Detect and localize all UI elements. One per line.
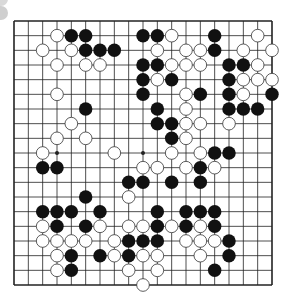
black-stone [136, 176, 149, 189]
white-stone [151, 161, 164, 174]
white-stone [108, 147, 121, 160]
white-stone [51, 132, 64, 145]
black-stone [208, 264, 221, 277]
white-stone [266, 73, 279, 86]
white-stone [36, 220, 49, 233]
black-stone [50, 161, 63, 174]
black-stone [151, 205, 164, 218]
white-stone [65, 44, 78, 57]
black-stone [237, 58, 250, 71]
white-stone [51, 264, 64, 277]
black-stone [251, 102, 264, 115]
black-stone [151, 102, 164, 115]
white-stone [51, 59, 64, 72]
black-stone [165, 132, 178, 145]
white-stone [108, 235, 121, 248]
star-point [55, 151, 59, 155]
white-stone [51, 88, 64, 101]
black-stone [36, 161, 49, 174]
black-stone [136, 234, 149, 247]
black-stone [151, 117, 164, 130]
black-stone [222, 249, 235, 262]
black-stone [208, 220, 221, 233]
white-stone [137, 220, 150, 233]
white-stone [65, 117, 78, 130]
black-stone [79, 29, 92, 42]
black-stone [108, 44, 121, 57]
black-stone [194, 176, 207, 189]
white-stone [165, 59, 178, 72]
white-stone [223, 117, 236, 130]
black-stone [194, 161, 207, 174]
black-stone [179, 205, 192, 218]
white-stone [180, 132, 193, 145]
black-stone [136, 73, 149, 86]
white-stone [180, 103, 193, 116]
black-stone [151, 58, 164, 71]
white-stone [151, 249, 164, 262]
white-stone [251, 59, 264, 72]
white-stone [180, 161, 193, 174]
white-stone [180, 88, 193, 101]
black-stone [79, 102, 92, 115]
go-board[interactable] [0, 0, 289, 298]
black-stone [208, 44, 221, 57]
black-stone [151, 29, 164, 42]
white-stone [51, 235, 64, 248]
black-stone [93, 44, 106, 57]
black-stone [165, 73, 178, 86]
black-stone [151, 234, 164, 247]
black-stone [136, 88, 149, 101]
white-stone [151, 73, 164, 86]
black-stone [265, 88, 278, 101]
white-stone [180, 117, 193, 130]
white-stone [165, 29, 178, 42]
white-stone [194, 249, 207, 262]
white-stone [194, 117, 207, 130]
white-stone [165, 220, 178, 233]
white-stone [194, 235, 207, 248]
black-stone [65, 205, 78, 218]
black-stone [65, 249, 78, 262]
black-stone [208, 146, 221, 159]
black-stone [93, 205, 106, 218]
white-stone [251, 73, 264, 86]
black-stone [237, 102, 250, 115]
white-stone [94, 220, 107, 233]
white-stone [65, 235, 78, 248]
white-stone [137, 279, 150, 292]
white-stone [180, 44, 193, 57]
white-stone [237, 44, 250, 57]
black-stone [50, 220, 63, 233]
black-stone [122, 234, 135, 247]
white-stone [237, 73, 250, 86]
black-stone [36, 205, 49, 218]
white-stone [51, 29, 64, 42]
white-stone [194, 44, 207, 57]
black-stone [222, 58, 235, 71]
white-stone [194, 220, 207, 233]
black-stone [79, 44, 92, 57]
black-stone [93, 249, 106, 262]
black-stone [50, 205, 63, 218]
white-stone [266, 44, 279, 57]
black-stone [122, 249, 135, 262]
white-stone [151, 44, 164, 57]
black-stone [208, 29, 221, 42]
white-stone [122, 264, 135, 277]
black-stone [165, 117, 178, 130]
white-stone [36, 44, 49, 57]
white-stone [180, 235, 193, 248]
white-stone [165, 147, 178, 160]
black-stone [194, 205, 207, 218]
white-stone [79, 59, 92, 72]
black-stone [222, 146, 235, 159]
white-stone [94, 59, 107, 72]
black-stone [194, 88, 207, 101]
black-stone [122, 176, 135, 189]
black-stone [165, 176, 178, 189]
white-stone [194, 59, 207, 72]
white-stone [251, 29, 264, 42]
star-point [141, 151, 145, 155]
white-stone [137, 249, 150, 262]
